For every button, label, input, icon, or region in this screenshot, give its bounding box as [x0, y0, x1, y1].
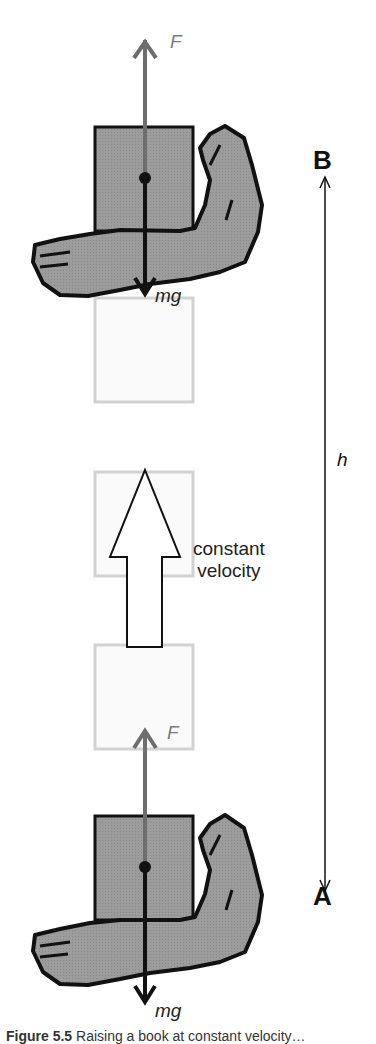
- point-label-a: A: [313, 883, 332, 909]
- figure-caption: Figure 5.5 Raising a book at constant ve…: [6, 1028, 306, 1044]
- point-label-b: B: [313, 147, 332, 173]
- center-of-mass-dot-bottom: [139, 861, 151, 873]
- weight-label-top: mg: [155, 286, 181, 305]
- motion-label-line2: velocity: [193, 560, 265, 582]
- height-label: h: [337, 450, 348, 469]
- ghost-block-1: [95, 298, 193, 402]
- motion-label-line1: constant: [193, 538, 265, 560]
- height-dimension-arrow: [320, 177, 330, 891]
- center-of-mass-dot-top: [139, 172, 151, 184]
- motion-label: constant velocity: [193, 538, 265, 582]
- force-label-top: F: [170, 32, 182, 51]
- caption-number: Figure 5.5: [6, 1028, 72, 1044]
- force-label-bottom: F: [167, 723, 179, 742]
- weight-label-bottom: mg: [155, 1001, 181, 1020]
- caption-text: Raising a book at constant velocity…: [76, 1028, 306, 1044]
